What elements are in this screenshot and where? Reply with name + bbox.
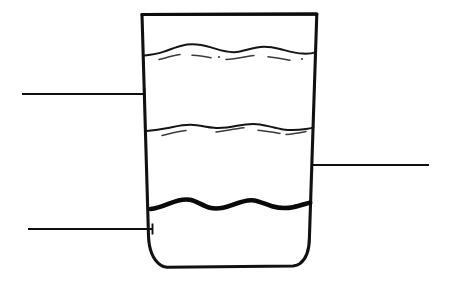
glass-rim-line (142, 14, 317, 15)
upper-surface-bubble-1 (218, 56, 220, 58)
upper-surface-bubble-2 (301, 58, 303, 60)
glass-diagram (0, 0, 452, 281)
figure-root (0, 0, 452, 281)
